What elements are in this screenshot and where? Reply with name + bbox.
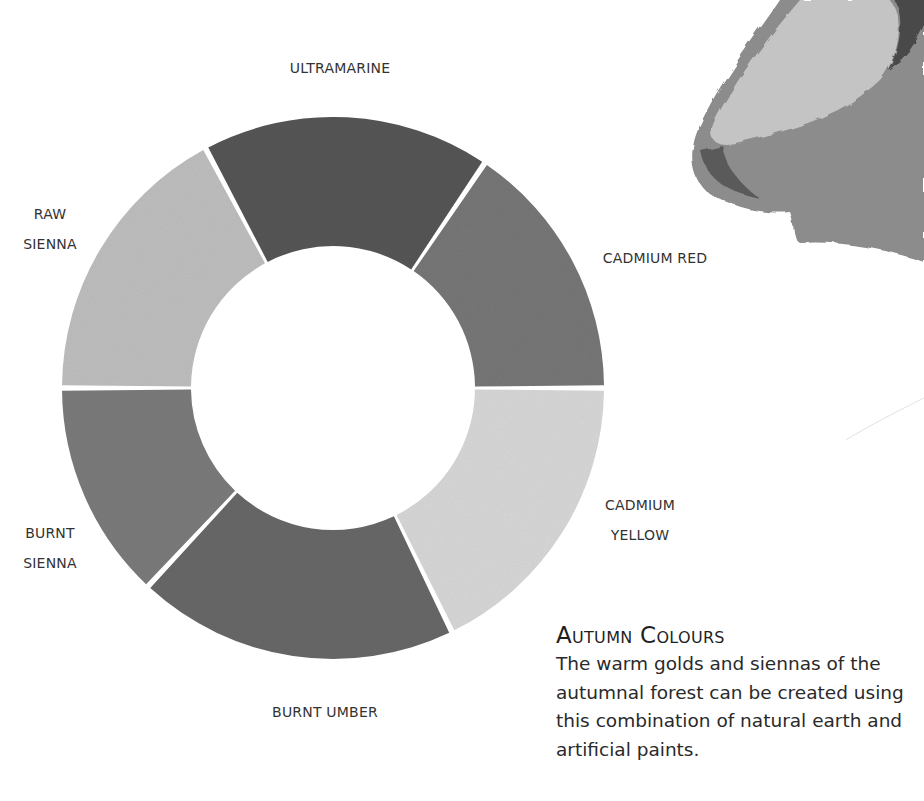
caption-line: autumnal forest can be created using: [556, 679, 924, 708]
label-raw-sienna-line2: SIENNA: [10, 229, 90, 259]
watercolour-wash-illustration: [692, 0, 924, 262]
caption: Autumn Colours The warm golds and sienna…: [556, 620, 924, 764]
caption-body: The warm golds and siennas of the autumn…: [556, 650, 924, 764]
label-raw-sienna: RAW SIENNA: [10, 199, 90, 259]
caption-line: this combination of natural earth and: [556, 707, 924, 736]
faint-stroke: [846, 398, 924, 440]
label-cadmium-red: CADMIUM RED: [590, 243, 720, 273]
label-cadmium-yellow-line2: YELLOW: [590, 520, 690, 550]
label-burnt-sienna-line2: SIENNA: [10, 548, 90, 578]
caption-title: Autumn Colours: [556, 620, 924, 650]
colour-wheel: [62, 117, 604, 659]
label-burnt-sienna: BURNT SIENNA: [10, 518, 90, 578]
label-cadmium-yellow: CADMIUM YELLOW: [590, 490, 690, 550]
label-ultramarine: ULTRAMARINE: [270, 53, 410, 83]
label-burnt-sienna-line1: BURNT: [10, 518, 90, 548]
label-burnt-umber: BURNT UMBER: [255, 697, 395, 727]
caption-line: The warm golds and siennas of the: [556, 650, 924, 679]
label-cadmium-yellow-line1: CADMIUM: [590, 490, 690, 520]
caption-line: artificial paints.: [556, 736, 924, 765]
label-raw-sienna-line1: RAW: [10, 199, 90, 229]
